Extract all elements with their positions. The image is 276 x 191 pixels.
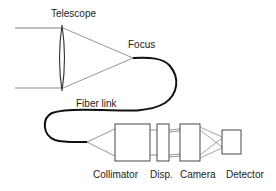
detector-box bbox=[222, 130, 241, 154]
telescope-lens-icon bbox=[60, 25, 65, 91]
collimator-cone bbox=[87, 129, 115, 156]
detector-label: Detector bbox=[226, 169, 264, 180]
disperser-label: Disp. bbox=[150, 169, 173, 180]
fiber-spectrograph-diagram: Telescope Focus Fiber link Collimator Di… bbox=[0, 0, 276, 191]
incoming-beams bbox=[15, 28, 62, 88]
telescope-label: Telescope bbox=[51, 8, 96, 19]
collimated-beam-1 bbox=[150, 130, 157, 155]
camera-label: Camera bbox=[180, 169, 216, 180]
collimator-label: Collimator bbox=[93, 169, 139, 180]
converging-rays bbox=[63, 28, 133, 88]
focus-label: Focus bbox=[128, 39, 155, 50]
collimator-box bbox=[115, 124, 150, 161]
camera-box bbox=[180, 124, 200, 161]
disperser-box bbox=[157, 124, 169, 161]
collimated-beam-2 bbox=[169, 129, 180, 157]
fiber-link-label: Fiber link bbox=[76, 98, 118, 109]
camera-focus-rays bbox=[200, 127, 222, 158]
